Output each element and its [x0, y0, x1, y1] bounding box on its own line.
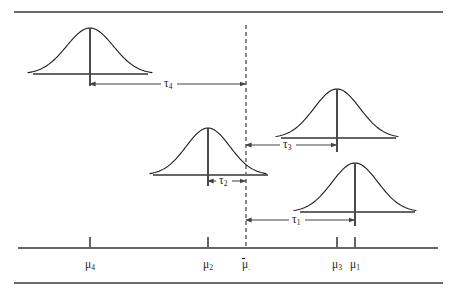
generated-geometry	[14, 12, 443, 283]
effect-label-tau1: τ1	[292, 214, 300, 226]
effect-label-tau2: τ2	[219, 175, 227, 187]
effect-label-tau3: τ3	[283, 139, 291, 151]
figure-canvas: μ4μ2μ.μ3μ1τ4τ3τ2τ1	[0, 0, 455, 294]
effect-label-tau4: τ4	[164, 78, 172, 90]
axis-label-mubar: μ.	[242, 259, 250, 271]
diagram-svg	[0, 0, 455, 294]
axis-label-mu1: μ1	[350, 259, 360, 271]
axis-label-mu4: μ4	[85, 259, 95, 271]
axis-label-mu2: μ2	[203, 259, 213, 271]
axis-label-mu3: μ3	[332, 259, 342, 271]
